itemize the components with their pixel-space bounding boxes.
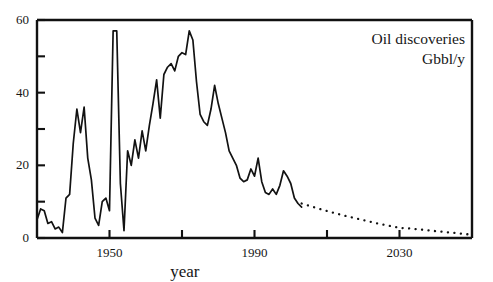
x-axis-title: year: [170, 262, 199, 282]
chart-annotation-block: Oil discoveries Gbbl/y: [372, 29, 465, 70]
y-tick-label: 0: [0, 231, 29, 244]
x-tick-label: 1950: [70, 246, 150, 259]
y-tick-label: 40: [0, 86, 29, 99]
chart-units-text: Gbbl/y: [372, 49, 465, 69]
x-tick-label: 2030: [360, 246, 440, 259]
x-tick-label: 1990: [215, 246, 295, 259]
y-tick-label: 20: [0, 158, 29, 171]
chart-title-text: Oil discoveries: [372, 29, 465, 49]
historical-discoveries-line: [37, 31, 302, 233]
y-tick-label: 60: [0, 13, 29, 26]
